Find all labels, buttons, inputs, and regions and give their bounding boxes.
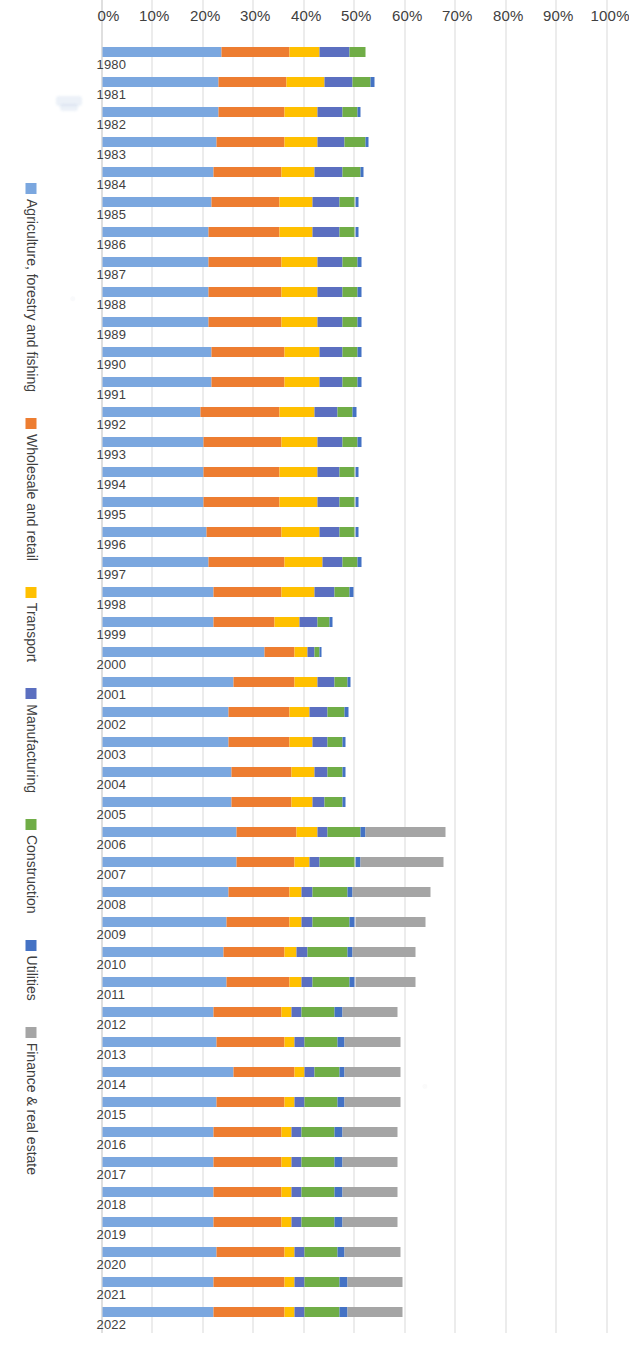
bar-segment bbox=[294, 1247, 304, 1257]
category-label-2013: 2013 bbox=[96, 1047, 126, 1062]
bar-segment bbox=[299, 617, 317, 627]
bar-1997 bbox=[102, 557, 607, 567]
bar-segment bbox=[102, 527, 206, 537]
bar-segment bbox=[334, 677, 347, 687]
bar-segment bbox=[102, 617, 213, 627]
bar-segment bbox=[284, 347, 319, 357]
bar-segment bbox=[289, 887, 302, 897]
bar-segment bbox=[281, 317, 316, 327]
bar-segment bbox=[339, 1307, 347, 1317]
category-label-2011: 2011 bbox=[96, 987, 125, 1002]
bar-segment bbox=[284, 1277, 294, 1287]
bar-segment bbox=[289, 977, 302, 987]
bar-segment bbox=[349, 917, 354, 927]
bar-segment bbox=[312, 887, 347, 897]
bar-segment bbox=[324, 797, 342, 807]
bar-segment bbox=[312, 737, 327, 747]
bar-segment bbox=[355, 197, 359, 207]
bar-segment bbox=[294, 1277, 304, 1287]
category-label-1985: 1985 bbox=[96, 207, 126, 222]
bar-segment bbox=[304, 1307, 339, 1317]
bar-segment bbox=[302, 1127, 335, 1137]
bar-segment bbox=[279, 197, 312, 207]
bar-2007 bbox=[102, 857, 607, 867]
legend-item[interactable]: Wholesale and retail bbox=[23, 418, 39, 561]
bar-segment bbox=[302, 1157, 335, 1167]
bar-segment bbox=[216, 1247, 284, 1257]
bar-segment bbox=[102, 377, 211, 387]
bar-segment bbox=[213, 1307, 284, 1317]
category-label-1987: 1987 bbox=[96, 267, 126, 282]
category-label-1986: 1986 bbox=[96, 237, 126, 252]
bar-segment bbox=[281, 1127, 291, 1137]
bar-2003 bbox=[102, 737, 607, 747]
bar-segment bbox=[291, 1157, 301, 1167]
bar-1987 bbox=[102, 257, 607, 267]
bar-segment bbox=[319, 377, 342, 387]
bar-segment bbox=[102, 77, 218, 87]
category-label-2018: 2018 bbox=[96, 1197, 126, 1212]
bar-segment bbox=[203, 497, 279, 507]
bar-segment bbox=[337, 1097, 345, 1107]
legend-item[interactable]: Agriculture, forestry and fishing bbox=[23, 183, 39, 392]
bar-segment bbox=[317, 257, 342, 267]
bar-segment bbox=[339, 227, 354, 237]
bar-segment bbox=[301, 887, 311, 897]
bar-segment bbox=[102, 1157, 213, 1167]
category-label-1992: 1992 bbox=[96, 417, 126, 432]
bar-segment bbox=[294, 857, 309, 867]
bar-segment bbox=[360, 167, 364, 177]
value-tick-label: 60% bbox=[388, 7, 422, 24]
bar-segment bbox=[291, 1217, 301, 1227]
bar-segment bbox=[102, 317, 208, 327]
bar-segment bbox=[347, 1307, 403, 1317]
bar-2014 bbox=[102, 1067, 607, 1077]
category-label-2006: 2006 bbox=[96, 837, 126, 852]
category-label-2022: 2022 bbox=[96, 1317, 126, 1332]
bar-segment bbox=[284, 1097, 294, 1107]
bar-segment bbox=[342, 167, 360, 177]
bar-segment bbox=[102, 947, 223, 957]
bar-segment bbox=[357, 317, 361, 327]
legend-label: Construction bbox=[23, 835, 39, 914]
bar-segment bbox=[102, 1127, 213, 1137]
bar-segment bbox=[213, 1007, 281, 1017]
bar-segment bbox=[309, 707, 327, 717]
bar-segment bbox=[304, 1067, 314, 1077]
bar-segment bbox=[291, 1187, 301, 1197]
legend-item[interactable]: Construction bbox=[23, 819, 39, 914]
bar-segment bbox=[203, 437, 281, 447]
bar-segment bbox=[352, 407, 356, 417]
bar-segment bbox=[312, 227, 340, 237]
value-tick-label: 40% bbox=[287, 7, 321, 24]
bar-segment bbox=[211, 377, 284, 387]
bar-2020 bbox=[102, 1247, 607, 1257]
bar-1988 bbox=[102, 287, 607, 297]
bar-segment bbox=[342, 1157, 398, 1167]
bar-segment bbox=[206, 527, 282, 537]
value-tick-label: 30% bbox=[237, 7, 271, 24]
bar-segment bbox=[102, 437, 203, 447]
scan-smudge bbox=[60, 104, 78, 111]
bar-segment bbox=[337, 1037, 345, 1047]
bar-segment bbox=[344, 137, 364, 147]
bar-1989 bbox=[102, 317, 607, 327]
legend-item[interactable]: Transport bbox=[23, 587, 39, 662]
bar-segment bbox=[213, 167, 281, 177]
bar-segment bbox=[319, 647, 321, 657]
bar-2009 bbox=[102, 917, 607, 927]
legend-item[interactable]: Utilities bbox=[23, 940, 39, 1001]
legend-item[interactable]: Manufacturing bbox=[23, 688, 39, 793]
bar-segment bbox=[319, 47, 349, 57]
bar-segment bbox=[281, 257, 316, 267]
legend-item[interactable]: Finance & real estate bbox=[23, 1027, 39, 1175]
bar-segment bbox=[284, 557, 322, 567]
legend-swatch-icon bbox=[26, 183, 37, 194]
bar-segment bbox=[317, 677, 335, 687]
bar-segment bbox=[319, 347, 342, 357]
category-label-2003: 2003 bbox=[96, 747, 126, 762]
bar-2008 bbox=[102, 887, 607, 897]
bar-segment bbox=[355, 467, 359, 477]
